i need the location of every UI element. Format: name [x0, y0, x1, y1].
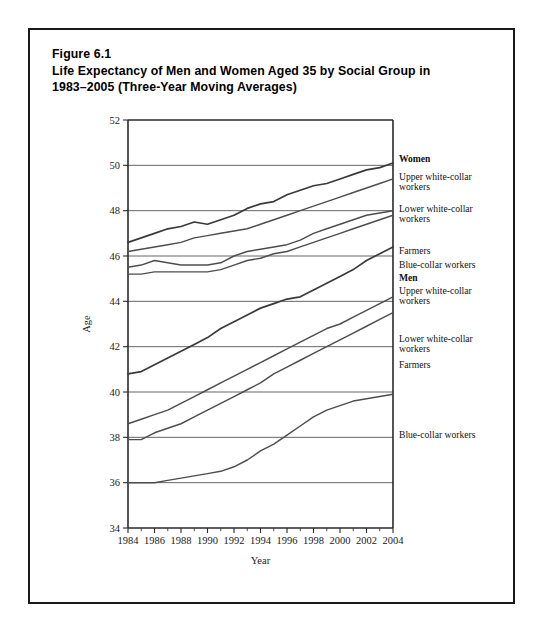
series-line-women-lower-white-collar-workers: [128, 179, 393, 252]
x-tick-label-2004: 2004: [383, 535, 405, 546]
y-tick-label-44: 44: [110, 296, 121, 307]
series-label-men-lower-wc: Lower white-collar workers: [399, 334, 473, 355]
series-label-women-lower-wc: Lower white-collar workers: [399, 204, 473, 225]
series-label-men-upper-wc: Upper white-collar workers: [399, 286, 472, 307]
series-line-men-blue-collar-workers: [128, 394, 393, 482]
y-tick-label-34: 34: [110, 523, 121, 534]
x-tick-label-1998: 1998: [303, 535, 324, 546]
x-tick-label-1994: 1994: [250, 535, 272, 546]
chart-canvas: 3436384042444648505219841986198819901992…: [30, 30, 517, 606]
x-tick-label-2002: 2002: [356, 535, 377, 546]
x-tick-label-2000: 2000: [330, 535, 351, 546]
series-label-women-blue-collar: Blue-collar workers: [399, 260, 475, 270]
figure-frame: Figure 6.1 Life Expectancy of Men and Wo…: [28, 28, 515, 604]
x-tick-label-1996: 1996: [277, 535, 298, 546]
series-label-women-upper-wc: Upper white-collar workers: [399, 172, 472, 193]
x-tick-label-1986: 1986: [144, 535, 165, 546]
y-tick-label-50: 50: [110, 160, 121, 171]
x-tick-label-1988: 1988: [171, 535, 192, 546]
series-label-women-farmers: Farmers: [399, 246, 430, 256]
y-tick-label-40: 40: [110, 387, 121, 398]
x-tick-label-1990: 1990: [197, 535, 218, 546]
y-tick-label-42: 42: [110, 341, 121, 352]
series-line-men-upper-white-collar-workers: [128, 247, 393, 374]
series-line-men-lower-white-collar-workers: [128, 297, 393, 424]
series-label-women-heading: Women: [399, 154, 430, 164]
series-line-women-upper-white-collar-workers: [128, 163, 393, 242]
y-axis-title: Age: [81, 315, 92, 333]
series-line-men-farmers: [128, 313, 393, 440]
y-tick-label-52: 52: [110, 115, 121, 126]
y-tick-label-38: 38: [110, 432, 121, 443]
y-tick-label-36: 36: [110, 477, 121, 488]
x-axis-title: Year: [251, 555, 271, 566]
y-tick-label-46: 46: [110, 251, 121, 262]
y-tick-label-48: 48: [110, 205, 121, 216]
x-tick-label-1992: 1992: [224, 535, 245, 546]
x-tick-label-1984: 1984: [118, 535, 140, 546]
series-label-men-farmers: Farmers: [399, 360, 430, 370]
series-label-men-blue-collar: Blue-collar workers: [399, 430, 475, 440]
series-label-men-heading: Men: [399, 273, 418, 283]
line-chart: 3436384042444648505219841986198819901992…: [30, 30, 517, 606]
